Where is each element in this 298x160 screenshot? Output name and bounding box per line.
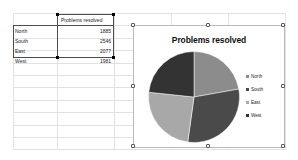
pie-chart-plot-area[interactable] [148,51,240,143]
legend-label-north: North [251,74,262,79]
table-row-label-south[interactable]: South [15,36,55,46]
grid-row-line [13,149,285,150]
chart-handle-top-left[interactable] [131,23,135,27]
legend-label-south: South [251,87,263,92]
table-row-value-north[interactable]: 1885 [59,26,113,36]
pie-slice-east[interactable] [149,92,195,142]
chart-handle-top-right[interactable] [281,23,285,27]
embedded-pie-chart-object[interactable]: Problems resolved North South East West [133,25,285,148]
selected-data-range[interactable]: Problems resolved North 1885 South 2546 … [13,14,114,58]
chart-handle-bottom-center[interactable] [206,144,210,148]
chart-handle-top-center[interactable] [206,23,210,27]
range-border-right [113,14,114,58]
pie-slice-west[interactable] [149,52,194,98]
legend-item-north[interactable]: North [246,70,279,83]
table-row-value-west[interactable]: 1981 [59,56,113,66]
legend-swatch-south-icon [246,88,249,91]
chart-handle-middle-left[interactable] [131,84,135,88]
legend-label-east: East [251,100,260,105]
legend-swatch-north-icon [246,75,249,78]
chart-title: Problems resolved [134,35,284,45]
range-border-split [57,14,58,58]
legend-swatch-east-icon [246,101,249,104]
chart-legend[interactable]: North South East West [246,70,279,122]
grid-column-line [285,13,286,150]
table-row-label-north[interactable]: North [15,26,55,36]
pie-chart-svg [148,51,240,143]
pie-slice-south[interactable] [188,89,240,142]
legend-item-south[interactable]: South [246,83,279,96]
legend-item-east[interactable]: East [246,96,279,109]
range-border-left [13,25,14,58]
chart-handle-middle-right[interactable] [281,84,285,88]
table-row-label-west[interactable]: West [15,56,55,66]
table-row-label-east[interactable]: East [15,46,55,56]
chart-handle-bottom-right[interactable] [281,144,285,148]
table-row-value-east[interactable]: 2077 [59,46,113,56]
table-header-cell[interactable]: Problems resolved [59,15,113,25]
spreadsheet-canvas[interactable]: Problems resolved North 1885 South 2546 … [0,0,298,160]
legend-label-west: West [251,113,261,118]
grid-column-line [114,13,115,150]
legend-swatch-west-icon [246,114,249,117]
legend-item-west[interactable]: West [246,109,279,122]
table-row-value-south[interactable]: 2546 [59,36,113,46]
chart-handle-bottom-left[interactable] [131,144,135,148]
